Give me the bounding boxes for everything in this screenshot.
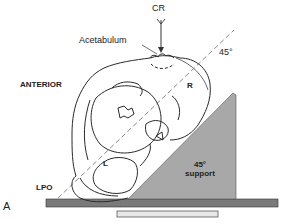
support-text: support	[180, 169, 220, 178]
arrow-head	[158, 47, 164, 53]
support-label: 45° support	[180, 160, 220, 178]
support-angle-text: 45°	[180, 160, 220, 169]
acetabulum-leader	[142, 45, 157, 54]
table	[46, 199, 278, 207]
central-ray-label: CR	[152, 4, 165, 13]
left-side-label: L	[103, 160, 108, 168]
image-receptor	[117, 211, 218, 217]
acetabulum-label: Acetabulum	[79, 36, 127, 45]
anterior-label: ANTERIOR	[20, 81, 62, 89]
lpo-label: LPO	[36, 184, 52, 192]
right-side-label: R	[187, 82, 193, 90]
support-wedge	[128, 93, 236, 199]
angle-label: 45°	[219, 48, 233, 57]
panel-label: A	[3, 201, 10, 212]
